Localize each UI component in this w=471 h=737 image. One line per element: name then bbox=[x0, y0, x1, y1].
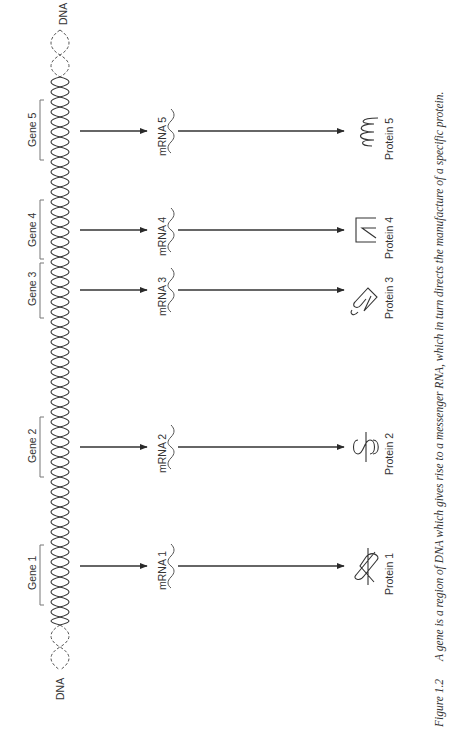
mrna-5-strand bbox=[168, 109, 174, 153]
mrna-1-label: mRNA 1 bbox=[156, 551, 168, 590]
protein-4-shape bbox=[356, 218, 376, 242]
dna-label-top: DNA bbox=[57, 3, 69, 25]
gene-2-label: Gene 2 bbox=[26, 429, 38, 463]
gene-1-group bbox=[40, 544, 344, 605]
mrna-2-label: mRNA 2 bbox=[156, 434, 168, 473]
gene-5-bracket bbox=[40, 100, 44, 160]
protein-2-label: Protein 2 bbox=[383, 433, 395, 475]
protein-3-label: Protein 3 bbox=[383, 277, 395, 319]
figure-caption-text: A gene is a region of DNA which gives ri… bbox=[433, 92, 445, 661]
mrna-4-strand bbox=[168, 208, 174, 252]
gene-3-bracket bbox=[40, 263, 44, 318]
gene-4-bracket bbox=[40, 200, 44, 259]
gene-5-label: Gene 5 bbox=[26, 113, 38, 147]
protein-2-shape bbox=[354, 432, 379, 462]
dna-helix bbox=[51, 77, 69, 625]
protein-4-label: Protein 4 bbox=[383, 217, 395, 259]
protein-3-shape bbox=[351, 288, 377, 315]
mrna-3-label: mRNA 3 bbox=[156, 277, 168, 316]
protein-1-label: Protein 1 bbox=[383, 553, 395, 595]
gene-2-bracket bbox=[40, 417, 44, 477]
dna-helix-dashed-bottom bbox=[51, 625, 69, 670]
figure-number: Figure 1.2 bbox=[433, 679, 445, 727]
gene-1-bracket bbox=[40, 545, 44, 605]
mrna-4-label: mRNA 4 bbox=[156, 217, 168, 256]
mrna-1-strand bbox=[168, 544, 174, 588]
gene-2-group bbox=[40, 417, 344, 477]
dna-helix-dashed-top bbox=[51, 30, 69, 77]
figure-caption: Figure 1.2A gene is a region of DNA whic… bbox=[433, 92, 445, 727]
gene-3-group bbox=[40, 263, 344, 318]
protein-1-shape bbox=[355, 548, 378, 585]
mrna-2-strand bbox=[168, 425, 174, 469]
gene-1-label: Gene 1 bbox=[26, 556, 38, 590]
dna-label-bottom: DNA bbox=[54, 678, 66, 700]
gene-4-label: Gene 4 bbox=[26, 213, 38, 247]
gene-4-group bbox=[40, 200, 344, 259]
mrna-3-strand bbox=[168, 268, 174, 312]
protein-5-label: Protein 5 bbox=[383, 118, 395, 160]
gene-3-label: Gene 3 bbox=[26, 272, 38, 306]
protein-5-shape bbox=[361, 118, 379, 146]
mrna-5-label: mRNA 5 bbox=[156, 117, 168, 156]
gene-5-group bbox=[40, 100, 344, 160]
gene-expression-diagram bbox=[0, 0, 471, 737]
